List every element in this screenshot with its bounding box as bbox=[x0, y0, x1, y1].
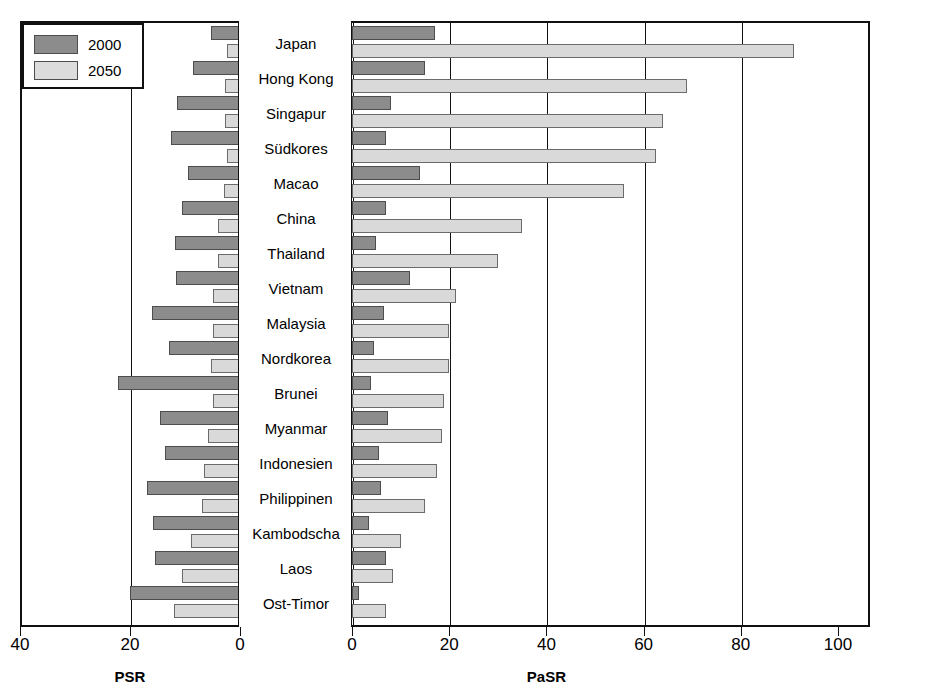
legend-label-2000: 2000 bbox=[88, 37, 121, 52]
legend-label-2050: 2050 bbox=[88, 63, 121, 78]
legend-item-2050: 2050 bbox=[34, 57, 142, 83]
axis-title-psr: PSR bbox=[70, 668, 190, 685]
legend-swatch-2000-icon bbox=[34, 35, 78, 54]
legend: 2000 2050 bbox=[22, 23, 144, 89]
axis-layer: PSR PaSR 40200020406080100 bbox=[0, 0, 930, 697]
pasr-20-tick-label: 20 bbox=[419, 636, 479, 653]
axis-title-pasr: PaSR bbox=[486, 668, 606, 685]
pasr-100-tick-label: 100 bbox=[808, 636, 868, 653]
pasr-0-tick-label: 0 bbox=[322, 636, 382, 653]
pasr-80-tick-label: 80 bbox=[711, 636, 771, 653]
legend-swatch-2050-icon bbox=[34, 61, 78, 80]
psr-20-tick-label: 20 bbox=[100, 636, 160, 653]
chart-root: JapanHong KongSingapurSüdkoresMacaoChina… bbox=[0, 0, 930, 697]
psr-40-tick-label: 40 bbox=[0, 636, 50, 653]
pasr-60-tick-label: 60 bbox=[614, 636, 674, 653]
pasr-40-tick-label: 40 bbox=[516, 636, 576, 653]
legend-item-2000: 2000 bbox=[34, 31, 142, 57]
psr-0-tick-label: 0 bbox=[210, 636, 270, 653]
